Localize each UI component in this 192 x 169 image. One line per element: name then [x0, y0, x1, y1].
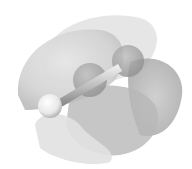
molecular-orbital-render — [0, 0, 192, 169]
hydrogen-atom — [38, 94, 62, 118]
orbital-graphic — [0, 0, 192, 169]
